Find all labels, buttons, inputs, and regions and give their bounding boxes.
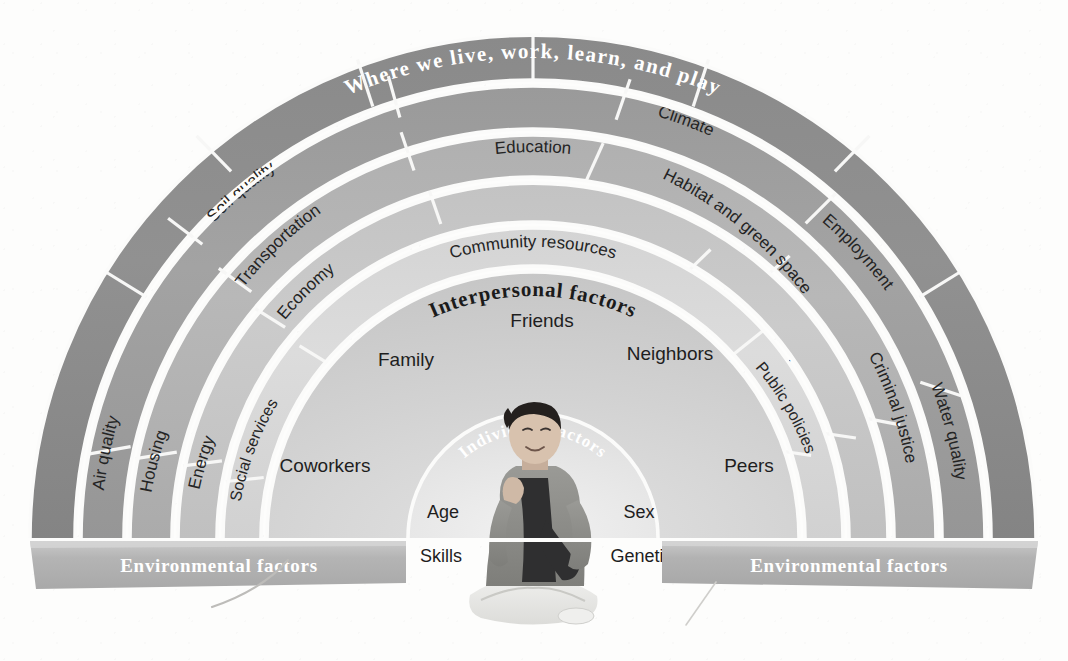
environmental-bar-left: Environmental factors — [30, 541, 406, 589]
interpersonal-label-family: Family — [378, 349, 434, 370]
scan-pencil-stroke-2 — [686, 582, 716, 625]
individual-label-age: Age — [427, 502, 459, 522]
individual-label-sex: Sex — [623, 502, 654, 522]
environmental-label-left: Environmental factors — [120, 555, 317, 576]
individual-label-skills: Skills — [420, 546, 462, 566]
interpersonal-label-friends: Friends — [510, 310, 573, 331]
socio-ecological-rings: Where we live, work, learn, and play Air… — [0, 0, 1068, 661]
interpersonal-label-neighbors: Neighbors — [627, 343, 714, 364]
diagram-canvas: Where we live, work, learn, and play Air… — [0, 0, 1068, 661]
environmental-label-right: Environmental factors — [750, 555, 947, 576]
environmental-bar-right: Environmental factors — [662, 541, 1038, 589]
interpersonal-label-coworkers: Coworkers — [280, 455, 371, 476]
interpersonal-label-peers: Peers — [724, 455, 774, 476]
